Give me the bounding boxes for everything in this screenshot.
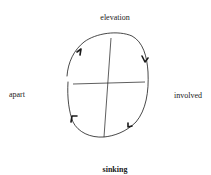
- arrow-bottom-left-icon: [71, 116, 77, 122]
- cycle-loop-graphic: [0, 0, 211, 175]
- horizontal-axis-line: [73, 82, 145, 84]
- arrow-bottom-right-icon: [128, 123, 132, 127]
- vertical-axis-line: [104, 38, 111, 137]
- arrow-top-left-icon: [77, 49, 81, 55]
